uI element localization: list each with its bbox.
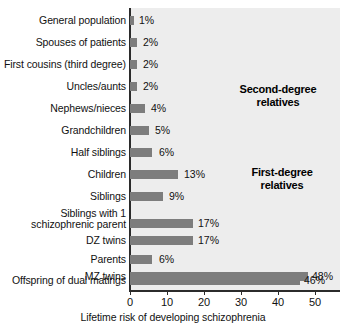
bar-row: General population 1% bbox=[0, 14, 346, 36]
bar bbox=[130, 82, 137, 91]
x-tick bbox=[130, 290, 131, 295]
x-tick bbox=[315, 290, 316, 295]
bar-value-label: 17% bbox=[198, 218, 219, 228]
x-tick-label: 20 bbox=[198, 296, 210, 308]
bar-value-label: 2% bbox=[143, 81, 158, 91]
category-label: Children bbox=[2, 169, 126, 180]
bar-value-label: 4% bbox=[151, 103, 166, 113]
bar-row: Offspring of dual matings 46% bbox=[0, 274, 346, 296]
first-degree-relatives-annotation: First-degree relatives bbox=[232, 166, 332, 191]
category-label: First cousins (third degree) bbox=[2, 59, 126, 70]
bar-value-label: 1% bbox=[139, 15, 154, 25]
bar-row: First cousins (third degree) 2% bbox=[0, 58, 346, 80]
category-label: Offspring of dual matings bbox=[2, 275, 126, 286]
bar-value-label: 46% bbox=[304, 275, 325, 285]
bar-value-label: 2% bbox=[143, 37, 158, 47]
bar-value-label: 13% bbox=[184, 169, 205, 179]
category-label: Siblings with 1 schizophrenic parent bbox=[2, 208, 126, 230]
bar bbox=[130, 170, 178, 179]
category-label: Siblings bbox=[2, 191, 126, 202]
bar bbox=[130, 16, 134, 25]
bar bbox=[130, 60, 137, 69]
bar-row: Grandchildren 5% bbox=[0, 124, 346, 146]
category-label: General population bbox=[2, 15, 126, 26]
x-tick bbox=[204, 290, 205, 295]
bar-row: MZ twins 48% bbox=[0, 252, 346, 274]
bar-value-label: 9% bbox=[169, 191, 184, 201]
bar-row: Siblings with 1 schizophrenic parent 17% bbox=[0, 208, 346, 230]
x-tick-label: 10 bbox=[161, 296, 173, 308]
x-tick-label: 30 bbox=[235, 296, 247, 308]
x-tick bbox=[241, 290, 242, 295]
bar bbox=[130, 38, 137, 47]
bar bbox=[130, 148, 152, 157]
bar bbox=[130, 104, 145, 113]
x-tick-label: 50 bbox=[309, 296, 321, 308]
bar-value-label: 2% bbox=[143, 59, 158, 69]
bar bbox=[130, 126, 149, 135]
bar-value-label: 17% bbox=[198, 235, 219, 245]
x-tick-label: 40 bbox=[272, 296, 284, 308]
x-tick-label: 0 bbox=[127, 296, 133, 308]
bar bbox=[130, 192, 163, 201]
category-label: Uncles/aunts bbox=[2, 81, 126, 92]
x-axis-title: Lifetime risk of developing schizophreni… bbox=[0, 311, 346, 323]
category-label: Nephews/nieces bbox=[2, 103, 126, 114]
category-label: DZ twins bbox=[2, 235, 126, 246]
bar bbox=[130, 219, 193, 228]
bar-value-label: 5% bbox=[155, 125, 170, 135]
category-label: Half siblings bbox=[2, 147, 126, 158]
x-tick bbox=[167, 290, 168, 295]
schizophrenia-risk-bar-chart: General population 1% Spouses of patient… bbox=[0, 0, 346, 333]
category-label: Grandchildren bbox=[2, 125, 126, 136]
bar bbox=[130, 236, 193, 245]
category-label: Spouses of patients bbox=[2, 37, 126, 48]
bar-row: Half siblings 6% bbox=[0, 146, 346, 168]
bar bbox=[130, 276, 300, 285]
second-degree-relatives-annotation: Second-degree relatives bbox=[228, 83, 328, 108]
x-tick bbox=[278, 290, 279, 295]
bar-value-label: 6% bbox=[159, 147, 174, 157]
bar-row: Spouses of patients 2% bbox=[0, 36, 346, 58]
